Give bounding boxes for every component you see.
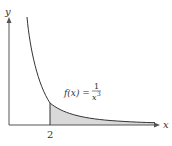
tick-label-2: 2 (47, 129, 53, 140)
y-axis-label: y (4, 6, 11, 17)
function-curve (27, 17, 155, 123)
function-exponent: 3 (97, 90, 101, 97)
x-axis-label: x (163, 119, 169, 130)
graph: y x 2 f(x) = 1 x 3 (0, 0, 172, 146)
shaded-region (50, 103, 155, 125)
function-label: f(x) = (63, 88, 90, 98)
x-axis-arrow-icon (154, 123, 160, 128)
y-axis-arrow-icon (7, 17, 12, 23)
